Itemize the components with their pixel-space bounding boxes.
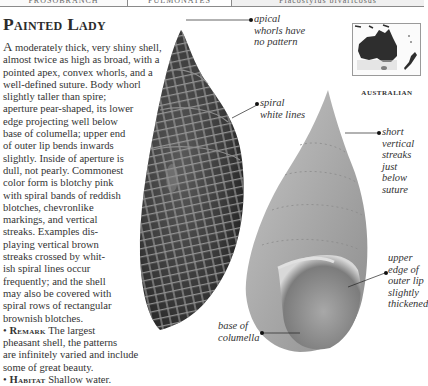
annotation-line: outer lip [388, 275, 428, 287]
annotation-line: short [382, 126, 414, 138]
annotation-line: apical [254, 13, 305, 25]
description-line: base of columella; upper end [3, 128, 173, 140]
description-line: with spiral bands of reddish [3, 190, 173, 202]
annotation-line: edge of [388, 264, 428, 276]
description-line: pointed apex, convex whorls, and a [3, 67, 173, 79]
description-line: spiral rows of rectangular [3, 300, 173, 312]
description-line: almost twice as high as broad, with a [3, 54, 173, 66]
annotation-apical-whorls: apical whorls have no pattern [254, 13, 305, 48]
description-line: aperture pear-shaped, its lower [3, 103, 173, 115]
annotation-line: vertical [382, 138, 414, 150]
description-line: may also be covered with [3, 288, 173, 300]
description-line: slightly taller than spire; [3, 91, 173, 103]
region-label: AUSTRALIAN [351, 89, 423, 97]
annotation-spiral-lines: spiral white lines [260, 97, 305, 120]
annotation-line: upper [388, 252, 428, 264]
header-cell-species: Placostylus bivaricosus [232, 0, 424, 6]
annotation-dot [377, 131, 381, 135]
description-line: ish spiral lines occur [3, 263, 173, 275]
annotation-line: white lines [260, 109, 305, 121]
header-cell-order: PULMONATES [128, 0, 232, 6]
annotation-line: slightly [388, 287, 428, 299]
annotation-line: whorls have [254, 25, 305, 37]
annotation-dot [249, 18, 253, 22]
annotation-base-columella: base of columella [218, 320, 259, 343]
description-text: A moderately thick, very shiny shell, al… [3, 41, 173, 386]
description-line: playing vertical brown [3, 239, 173, 251]
remark-heading: Remark [9, 325, 45, 336]
habitat-section: • Habitat Shallow water. [3, 374, 173, 386]
description-line: well-defined suture. Body whorl [3, 79, 173, 91]
description-line: dull, not pearly. Commonest [3, 165, 173, 177]
drop-cap: A [3, 39, 12, 54]
description-line: color form is blotchy pink [3, 177, 173, 189]
description-line: of outer lip bends inwards [3, 140, 173, 152]
description-line: frequently; and the shell [3, 276, 173, 288]
annotation-line: below [382, 172, 414, 184]
light-shell [246, 90, 368, 352]
description-line: edge projecting well below [3, 116, 173, 128]
annotation-line: columella [218, 332, 259, 344]
description-line: streaks crossed by whit- [3, 251, 173, 263]
remark-line: pheasant shell, the patterns [3, 337, 173, 349]
annotation-line: just [382, 161, 414, 173]
remark-line: are infinitely varied and include [3, 349, 173, 361]
annotation-line: thickened [388, 298, 428, 310]
page-title: Painted Lady [3, 14, 106, 35]
description-line: brownish blotches. [3, 313, 173, 325]
section-header-bar: PROSOBRANCH PULMONATES Placostylus bivar… [0, 0, 424, 7]
australia-map-icon [353, 24, 421, 76]
description-line: streaks. Examples dis- [3, 226, 173, 238]
annotation-upper-edge: upper edge of outer lip slightly thicken… [388, 252, 428, 310]
habitat-heading: Habitat [9, 374, 45, 385]
annotation-line: spiral [260, 97, 305, 109]
annotation-dot [255, 102, 259, 106]
remark-line: some of great beauty. [3, 362, 173, 374]
bullet-icon: • [3, 325, 7, 336]
annotation-line: suture [382, 184, 414, 196]
description-line: moderately thick, very shiny shell, [12, 42, 161, 53]
description-line: markings, and vertical [3, 214, 173, 226]
description-line: slightly. Inside of aperture is [3, 153, 173, 165]
habitat-text: Shallow water. [46, 374, 112, 385]
annotation-short-streaks: short vertical streaks just below suture [382, 126, 414, 195]
description-first-line: A moderately thick, very shiny shell, [3, 41, 173, 54]
remark-line: The largest [46, 325, 96, 336]
remark-section: • Remark The largest [3, 325, 173, 337]
bullet-icon: • [3, 374, 7, 385]
annotation-dot [260, 331, 264, 335]
distribution-map [352, 23, 421, 76]
description-line: blotches, chevronlike [3, 202, 173, 214]
header-cell-class: PROSOBRANCH [0, 0, 128, 6]
annotation-line: streaks [382, 149, 414, 161]
annotation-line: base of [218, 320, 259, 332]
annotation-line: no pattern [254, 36, 305, 48]
